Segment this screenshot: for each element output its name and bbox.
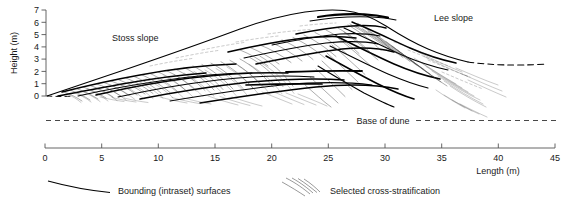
y-tick-label-1: 1 xyxy=(34,79,39,89)
x-tick-label-45: 45 xyxy=(550,153,560,163)
y-axis-title: Height (m) xyxy=(9,32,19,74)
base-of-dune-group: Base of dune xyxy=(46,116,556,126)
y-axis: 0 1 2 3 4 5 6 7 Height (m) xyxy=(9,5,46,101)
y-tick-label-0: 0 xyxy=(34,91,39,101)
x-tick-label-40: 40 xyxy=(493,153,503,163)
x-tick-label-30: 30 xyxy=(380,153,390,163)
bounding-surface-icon xyxy=(48,181,110,193)
annotation-base-of-dune: Base of dune xyxy=(356,116,409,126)
annotation-stoss-slope: Stoss slope xyxy=(112,33,159,43)
y-tick-label-6: 6 xyxy=(34,18,39,28)
dune-cross-section-figure: 0 1 2 3 4 5 6 7 Height (m) xyxy=(0,0,577,208)
x-tick-label-20: 20 xyxy=(267,153,277,163)
x-tick-label-35: 35 xyxy=(437,153,447,163)
bounding-surfaces xyxy=(58,14,456,107)
dune-body xyxy=(47,10,547,117)
x-tick-label-10: 10 xyxy=(153,153,163,163)
legend-item-bounding-surfaces: Bounding (intraset) surfaces xyxy=(48,181,231,196)
figure-container: 0 1 2 3 4 5 6 7 Height (m) xyxy=(0,0,577,208)
y-tick-label-3: 3 xyxy=(34,54,39,64)
x-axis-ticks xyxy=(45,144,555,149)
x-tick-label-25: 25 xyxy=(323,153,333,163)
y-tick-label-5: 5 xyxy=(34,30,39,40)
x-tick-label-5: 5 xyxy=(99,153,104,163)
cross-stratification-icon xyxy=(282,178,320,196)
y-axis-ticks xyxy=(42,10,47,96)
x-axis: 0 5 10 15 20 25 30 35 40 45 Length (m) xyxy=(42,144,560,177)
dune-surface-dashed-toe xyxy=(468,62,547,65)
y-tick-label-4: 4 xyxy=(34,42,39,52)
annotation-lee-slope: Lee slope xyxy=(434,13,473,23)
legend-label-cross-stratification: Selected cross-stratification xyxy=(330,186,440,196)
dune-surface-profile xyxy=(47,10,468,96)
y-tick-label-2: 2 xyxy=(34,67,39,77)
legend-label-bounding-surfaces: Bounding (intraset) surfaces xyxy=(118,186,231,196)
x-tick-label-0: 0 xyxy=(42,153,47,163)
legend: Bounding (intraset) surfaces Selected cr… xyxy=(48,178,440,196)
x-tick-label-15: 15 xyxy=(210,153,220,163)
cross-stratification-lee-fine xyxy=(414,52,506,117)
x-axis-title: Length (m) xyxy=(476,166,520,176)
legend-item-cross-stratification: Selected cross-stratification xyxy=(282,178,440,196)
y-tick-label-7: 7 xyxy=(34,5,39,15)
